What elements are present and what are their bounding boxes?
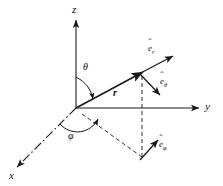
e-theta-vector-line: [140, 74, 160, 95]
phi-arc: [60, 119, 98, 132]
position-vector-label: r: [113, 88, 117, 98]
e-theta-base: ˆe: [160, 76, 164, 86]
e-phi-base: ˆe: [159, 139, 163, 149]
e-phi-label: ˆeφ: [159, 140, 167, 151]
e-r-vector-line: [135, 56, 173, 76]
e-r-label: ˆer: [148, 44, 155, 55]
spherical-coordinates-figure: z y x θ φ r ˆer ˆeθ ˆeφ: [0, 0, 223, 186]
theta-angle-label: θ: [83, 62, 88, 72]
y-axis-label: y: [205, 101, 210, 112]
phi-angle-label: φ: [68, 131, 74, 141]
x-axis-label: x: [9, 170, 14, 181]
e-phi-vector-line: [140, 140, 158, 160]
e-theta-subscript: θ: [164, 81, 167, 88]
projection-line: [82, 114, 142, 157]
e-r-base: ˆe: [148, 43, 152, 53]
e-theta-hat: ˆ: [160, 71, 164, 80]
e-phi-hat: ˆ: [159, 134, 163, 143]
e-r-hat: ˆ: [148, 38, 152, 47]
theta-arc: [76, 77, 93, 99]
position-vector-line: [76, 72, 143, 108]
e-theta-label: ˆeθ: [160, 77, 167, 88]
e-phi-subscript: φ: [163, 144, 167, 151]
e-r-subscript: r: [152, 48, 155, 55]
diagram-canvas: [0, 0, 223, 186]
z-axis-label: z: [72, 4, 76, 15]
